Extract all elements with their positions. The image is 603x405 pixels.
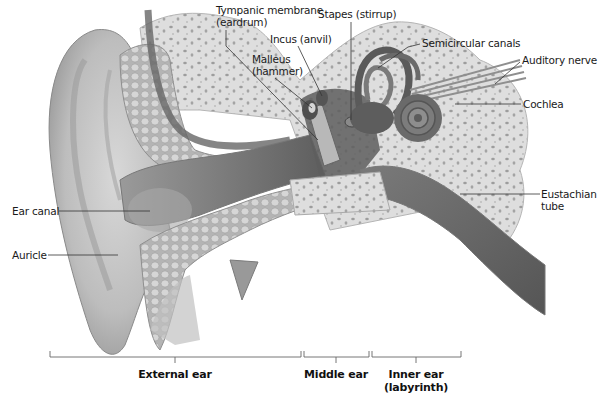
- ear-anatomy-diagram: Tympanic membrane(eardrum) Stapes (stirr…: [0, 0, 603, 405]
- bracket-external-ear: [50, 351, 301, 363]
- label-malleus: Malleus(hammer): [252, 53, 303, 77]
- label-cochlea: Cochlea: [523, 98, 564, 110]
- bracket-inner-ear: [372, 351, 461, 363]
- bracket-middle-ear: [304, 351, 369, 363]
- label-stapes: Stapes (stirrup): [318, 8, 396, 20]
- label-tympanic-membrane: Tympanic membrane(eardrum): [216, 4, 323, 28]
- label-auditory-nerve: Auditory nerve: [522, 54, 597, 66]
- section-label-external-ear: External ear: [115, 368, 235, 381]
- label-semicircular-canals: Semicircular canals: [422, 37, 520, 49]
- section-label-inner-ear: Inner ear(labyrinth): [356, 368, 476, 394]
- label-auricle: Auricle: [12, 249, 47, 261]
- label-eustachian-tube: Eustachiantube: [541, 188, 597, 212]
- label-incus: Incus (anvil): [270, 33, 332, 45]
- label-ear-canal: Ear canal: [12, 205, 59, 217]
- cochlea-shape: [394, 94, 442, 142]
- incus-shape: [316, 90, 328, 106]
